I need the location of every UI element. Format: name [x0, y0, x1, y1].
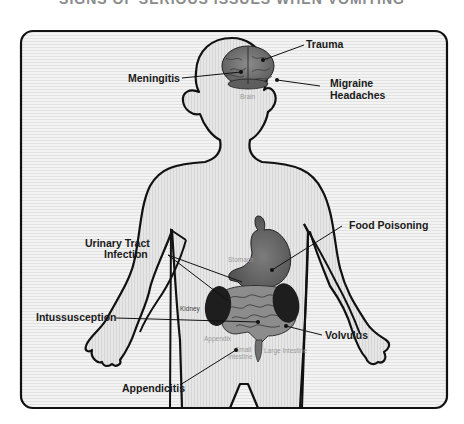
stomach-label: Stomach [228, 256, 254, 263]
label-appendicitis: Appendicitis [122, 382, 185, 394]
brain-illustration [222, 46, 274, 89]
label-food-poisoning: Food Poisoning [349, 219, 428, 231]
body-diagram: Brain Stomach Kidney Appendix Small Inte… [0, 0, 464, 424]
small-intestine-label-2: Intestine [228, 353, 253, 360]
appendix-label: Appendix [204, 335, 232, 343]
label-migraine-1: Migraine [330, 77, 373, 89]
label-volvulus: Volvulus [325, 329, 368, 341]
kidney-label: Kidney [180, 305, 201, 313]
label-migraine-2: Headaches [330, 89, 386, 101]
label-uti-2: Infection [104, 248, 148, 260]
label-intussusception: Intussusception [36, 311, 117, 323]
brain-label: Brain [240, 93, 256, 100]
label-meningitis: Meningitis [128, 72, 180, 84]
large-intestine-label: Large Intestine [264, 347, 307, 355]
label-trauma: Trauma [306, 38, 344, 50]
